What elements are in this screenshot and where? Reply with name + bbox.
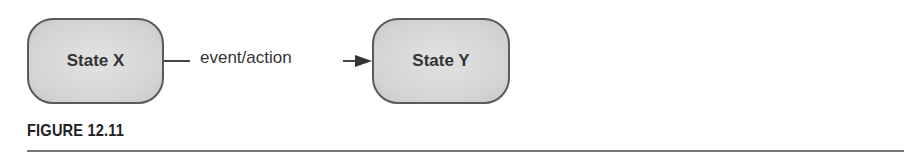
caption-divider — [27, 150, 904, 152]
state-x-node: State X — [27, 18, 164, 104]
state-y-label: State Y — [412, 51, 469, 71]
state-y-node: State Y — [372, 18, 510, 104]
transition-label: event/action — [200, 48, 292, 68]
transition-line — [164, 60, 190, 62]
state-x-label: State X — [67, 51, 125, 71]
figure-caption: FIGURE 12.11 — [27, 121, 124, 141]
arrow-right-icon — [343, 51, 373, 71]
